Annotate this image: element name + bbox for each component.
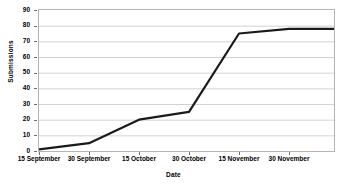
plot-area <box>38 9 335 152</box>
x-tick-label: 15 September <box>18 155 61 162</box>
y-tick-mark <box>34 57 37 58</box>
line-chart: Submissions 0102030405060708090 15 Septe… <box>0 0 347 186</box>
x-tick-label: 30 October <box>172 155 206 162</box>
y-tick-label: 0 <box>14 148 30 155</box>
y-tick-mark <box>34 88 37 89</box>
y-tick-label: 10 <box>14 132 30 139</box>
y-tick-label: 80 <box>14 22 30 29</box>
y-tick-label: 20 <box>14 116 30 123</box>
y-tick-mark <box>34 73 37 74</box>
x-axis-title: Date <box>0 171 347 178</box>
y-tick-label: 30 <box>14 101 30 108</box>
y-tick-mark <box>34 104 37 105</box>
y-tick-mark <box>34 26 37 27</box>
x-tick-label: 15 October <box>122 155 156 162</box>
y-tick-label: 60 <box>14 54 30 61</box>
y-tick-mark <box>34 10 37 11</box>
y-tick-mark <box>34 41 37 42</box>
x-tick-label: 30 September <box>68 155 111 162</box>
y-tick-label: 50 <box>14 69 30 76</box>
x-tick-label: 15 November <box>219 155 260 162</box>
y-tick-label: 40 <box>14 85 30 92</box>
y-tick-label: 70 <box>14 38 30 45</box>
plot-canvas <box>39 10 334 151</box>
y-tick-mark <box>34 120 37 121</box>
x-tick-label: 30 November <box>269 155 310 162</box>
gridlines <box>39 26 334 151</box>
y-tick-label: 90 <box>14 7 30 14</box>
y-tick-mark <box>34 151 37 152</box>
y-axis-title: Submissions <box>7 26 14 98</box>
y-tick-mark <box>34 135 37 136</box>
